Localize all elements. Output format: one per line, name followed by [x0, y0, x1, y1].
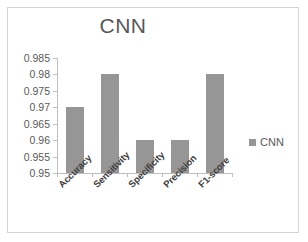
y-tick-label: 0.955 [24, 151, 50, 163]
y-tick-label: 0.98 [30, 68, 50, 80]
chart-title: CNN [8, 14, 238, 38]
y-tick-label: 0.985 [24, 52, 50, 64]
y-tick-mark [53, 140, 57, 141]
plot-area: 0.9850.980.9750.970.9650.960.9550.95 Acc… [57, 58, 232, 173]
legend-swatch-icon [249, 139, 256, 146]
y-tick-label: 0.95 [30, 167, 50, 179]
x-tick-mark [127, 173, 128, 177]
x-tick-mark [232, 173, 233, 177]
y-tick-mark [53, 58, 57, 59]
legend-label: CNN [260, 136, 284, 148]
x-tick-mark [162, 173, 163, 177]
y-tick-mark [53, 107, 57, 108]
chart-legend: CNN [249, 136, 284, 148]
chart-frame: CNN 0.9850.980.9750.970.9650.960.9550.95… [7, 7, 299, 233]
y-tick-mark [53, 124, 57, 125]
x-tick-mark [57, 173, 58, 177]
chart-screenshot: CNN 0.9850.980.9750.970.9650.960.9550.95… [0, 0, 308, 242]
y-tick-mark [53, 157, 57, 158]
y-tick-mark [53, 91, 57, 92]
x-tick-mark [92, 173, 93, 177]
y-tick-label: 0.965 [24, 118, 50, 130]
y-tick-label: 0.96 [30, 134, 50, 146]
y-tick-label: 0.97 [30, 101, 50, 113]
y-axis-line [57, 58, 58, 173]
y-tick-mark [53, 74, 57, 75]
x-tick-mark [197, 173, 198, 177]
y-tick-label: 0.975 [24, 85, 50, 97]
